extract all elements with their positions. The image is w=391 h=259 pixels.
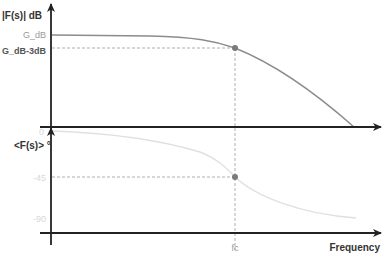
cutoff-marker-magnitude [232,45,238,51]
phase-panel: <F(s)> ° 0 -45 -90 fc Frequency [14,127,381,253]
tick-label-minus90: -90 [33,214,46,224]
phase-curve [52,131,356,218]
tick-label-gain: G_dB [23,30,46,40]
cutoff-marker-phase [232,174,238,180]
bode-plot-diagram: |F(s)| dB G_dB G_dB-3dB <F(s)> ° 0 -45 -… [0,0,391,259]
frequency-axis-label: Frequency [329,242,380,253]
fc-label: fc [231,243,239,253]
tick-label-gain-3db: G_dB-3dB [2,46,47,56]
tick-label-0: 0 [39,127,44,137]
tick-label-minus45: -45 [33,173,46,183]
magnitude-panel: |F(s)| dB G_dB G_dB-3dB [2,4,381,127]
magnitude-curve [52,35,354,127]
phase-axis-label: <F(s)> ° [14,140,51,151]
magnitude-axis-label: |F(s)| dB [2,10,42,21]
